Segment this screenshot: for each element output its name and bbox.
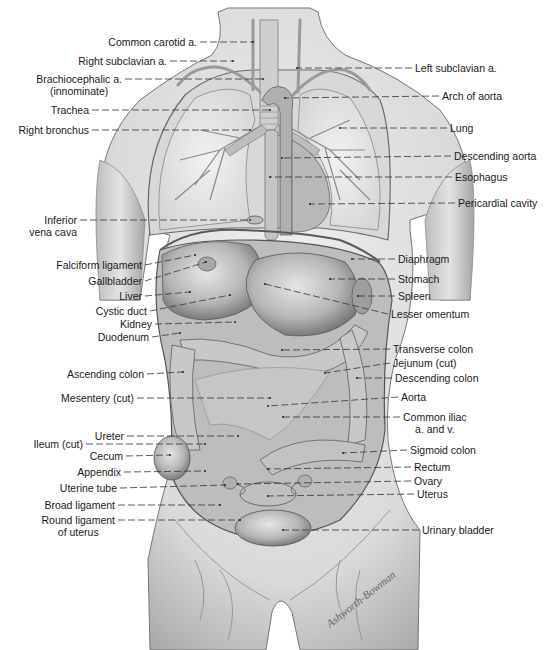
label-text: Inferior (44, 214, 77, 226)
label-lesser-omentum: Lesser omentum (391, 308, 469, 320)
label-descending-colon: Descending colon (395, 372, 478, 384)
trachea-shape (260, 20, 278, 130)
abdominal-cavity (154, 240, 392, 546)
label-gallbladder: Gallbladder (88, 275, 142, 287)
label-cystic-duct: Cystic duct (96, 305, 147, 317)
label-text-line2: a. and v. (403, 423, 467, 435)
label-urinary-bladder: Urinary bladder (422, 524, 494, 536)
label-text: Uterus (417, 488, 448, 500)
label-text: Brachiocephalic a. (36, 73, 122, 85)
label-text: Descending aorta (454, 150, 536, 162)
label-text-line2: vena cava (29, 226, 77, 238)
label-spleen: Spleen (398, 290, 431, 302)
label-text: Mesentery (cut) (61, 392, 134, 404)
label-text: Ascending colon (67, 368, 144, 380)
uterus-shape (240, 482, 296, 506)
label-rectum: Rectum (414, 461, 450, 473)
label-right-subclavian: Right subclavian a. (78, 55, 167, 67)
label-sigmoid-colon: Sigmoid colon (410, 444, 476, 456)
label-text: Trachea (51, 104, 89, 116)
label-text: Ileum (cut) (33, 438, 83, 450)
label-jejunum: Jejunum (cut) (393, 357, 457, 369)
label-transverse-colon: Transverse colon (393, 343, 473, 355)
label-pericardial-cavity: Pericardial cavity (458, 197, 537, 209)
label-text: Spleen (398, 290, 431, 302)
label-text: Liver (119, 290, 142, 302)
label-left-subclavian: Left subclavian a. (415, 62, 497, 74)
label-text: Aorta (401, 391, 426, 403)
label-diaphragm: Diaphragm (398, 253, 449, 265)
label-text: Descending colon (395, 372, 478, 384)
label-aorta: Aorta (401, 391, 426, 403)
label-text: Stomach (398, 273, 439, 285)
label-appendix: Appendix (77, 466, 121, 478)
urinary-bladder-shape (235, 510, 311, 546)
label-text: Transverse colon (393, 343, 473, 355)
label-text: Uterine tube (60, 482, 117, 494)
label-text: Falciform ligament (56, 259, 142, 271)
label-liver: Liver (119, 290, 142, 302)
label-ileum: Ileum (cut) (33, 438, 83, 450)
label-text: Kidney (120, 318, 152, 330)
label-text: Common carotid a. (108, 36, 197, 48)
label-ovary: Ovary (414, 475, 442, 487)
label-uterus: Uterus (417, 488, 448, 500)
label-arch-of-aorta: Arch of aorta (442, 90, 502, 102)
label-text: Ureter (95, 430, 124, 442)
label-text: Jejunum (cut) (393, 357, 457, 369)
label-text: Round ligament (41, 514, 115, 526)
label-round-ligament: Round ligamentof uterus (41, 514, 115, 538)
label-lung: Lung (450, 122, 473, 134)
label-broad-ligament: Broad ligament (44, 499, 115, 511)
label-ureter: Ureter (95, 430, 124, 442)
label-cecum: Cecum (90, 450, 123, 462)
label-text: Appendix (77, 466, 121, 478)
label-text: Gallbladder (88, 275, 142, 287)
label-text: Pericardial cavity (458, 197, 537, 209)
label-descending-aorta: Descending aorta (454, 150, 536, 162)
label-text: Lesser omentum (391, 308, 469, 320)
label-duodenum: Duodenum (98, 331, 149, 343)
label-text: Cecum (90, 450, 123, 462)
label-text: Arch of aorta (442, 90, 502, 102)
label-text: Right subclavian a. (78, 55, 167, 67)
label-right-bronchus: Right bronchus (18, 124, 89, 136)
label-text: Lung (450, 122, 473, 134)
label-text: Common iliac (403, 411, 467, 423)
label-common-carotid: Common carotid a. (108, 36, 197, 48)
label-inferior-vena-cava: Inferiorvena cava (29, 214, 77, 238)
label-text: Urinary bladder (422, 524, 494, 536)
label-text: Broad ligament (44, 499, 115, 511)
label-uterine-tube: Uterine tube (60, 482, 117, 494)
label-text: Sigmoid colon (410, 444, 476, 456)
label-text: Cystic duct (96, 305, 147, 317)
label-text: Rectum (414, 461, 450, 473)
label-text: Diaphragm (398, 253, 449, 265)
label-ascending-colon: Ascending colon (67, 368, 144, 380)
label-esophagus: Esophagus (455, 171, 508, 183)
label-text: Ovary (414, 475, 442, 487)
label-mesentery: Mesentery (cut) (61, 392, 134, 404)
label-text: Left subclavian a. (415, 62, 497, 74)
label-text: Duodenum (98, 331, 149, 343)
label-brachiocephalic: Brachiocephalic a.(innominate) (36, 73, 122, 97)
label-kidney: Kidney (120, 318, 152, 330)
label-text-line2: (innominate) (36, 85, 122, 97)
label-text: Right bronchus (18, 124, 89, 136)
label-trachea: Trachea (51, 104, 89, 116)
label-stomach: Stomach (398, 273, 439, 285)
label-text: Esophagus (455, 171, 508, 183)
label-common-iliac: Common iliaca. and v. (403, 411, 467, 435)
label-text-line2: of uterus (41, 526, 115, 538)
label-falciform-ligament: Falciform ligament (56, 259, 142, 271)
